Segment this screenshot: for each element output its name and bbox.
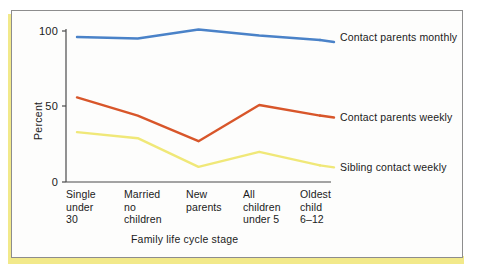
x-axis-title: Family life cycle stage — [131, 233, 238, 245]
x-category-label-0: Single under 30 — [66, 188, 96, 226]
y-axis-title: Percent — [32, 102, 44, 140]
x-category-label-3: All children under 5 — [243, 188, 281, 226]
series-label-contact-parents-weekly: Contact parents weekly — [340, 111, 452, 123]
x-category-label-1: Married no children — [124, 188, 162, 226]
y-tick-label-100: 100 — [28, 25, 58, 37]
series-label-contact-parents-monthly: Contact parents monthly — [340, 31, 457, 43]
y-tick-label-0: 0 — [28, 176, 58, 188]
series-label-sibling-contact-weekly: Sibling contact weekly — [340, 161, 447, 173]
chart-screenshot: 100 50 0 Percent Single under 30 Married… — [0, 0, 484, 271]
x-category-label-2: New parents — [186, 188, 222, 213]
x-category-label-4: Oldest child 6–12 — [300, 188, 331, 226]
